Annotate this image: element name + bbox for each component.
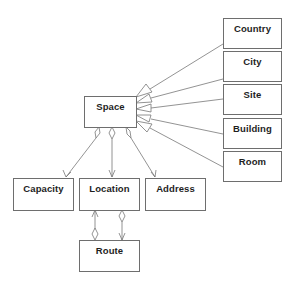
class-capacity-label: Capacity	[14, 183, 73, 194]
line-space-address	[131, 138, 155, 177]
class-address[interactable]: Address	[145, 178, 206, 211]
class-building[interactable]: Building	[223, 118, 282, 149]
class-location-label: Location	[80, 183, 139, 194]
class-site-label: Site	[224, 89, 281, 100]
class-space[interactable]: Space	[84, 96, 137, 128]
class-room-label: Room	[224, 156, 281, 167]
class-capacity[interactable]: Capacity	[13, 178, 74, 211]
line-building-space	[151, 119, 223, 134]
generalization-arrow-room	[136, 121, 152, 132]
generalization-arrow-building	[136, 115, 151, 122]
class-room[interactable]: Room	[223, 151, 282, 182]
class-space-label: Space	[85, 101, 136, 112]
aggregation-diamond-address	[126, 127, 131, 138]
line-site-space	[151, 99, 223, 108]
line-space-capacity	[66, 138, 96, 177]
arrowhead-capacity	[63, 170, 71, 177]
aggregation-diamond-location	[109, 127, 115, 139]
class-country[interactable]: Country	[223, 18, 282, 49]
aggregation-diamond-location-route	[119, 210, 125, 222]
class-route[interactable]: Route	[79, 240, 140, 272]
generalization-arrow-site	[136, 104, 151, 112]
class-city-label: City	[224, 56, 281, 67]
class-building-label: Building	[224, 123, 281, 134]
class-route-label: Route	[80, 245, 139, 256]
class-country-label: Country	[224, 23, 281, 34]
aggregation-diamond-capacity	[95, 127, 100, 138]
aggregation-diamond-route	[92, 228, 98, 240]
class-site[interactable]: Site	[223, 84, 282, 115]
line-room-space	[150, 128, 223, 167]
class-city[interactable]: City	[223, 51, 282, 82]
class-location[interactable]: Location	[79, 178, 140, 211]
class-address-label: Address	[146, 183, 205, 194]
